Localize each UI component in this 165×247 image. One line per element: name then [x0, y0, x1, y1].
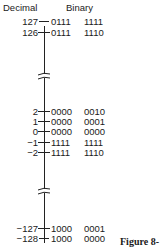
binary-high-nibble: 0111	[51, 16, 71, 27]
binary-high-nibble: 0111	[51, 27, 71, 38]
axis-tick	[38, 32, 50, 33]
binary-high-nibble: 0000	[51, 126, 72, 137]
binary-high-nibble: 1000	[51, 233, 72, 244]
binary-low-nibble: 1110	[84, 147, 104, 158]
value-row: 0 0000 0000	[0, 126, 165, 137]
decimal-value: −2	[27, 147, 38, 158]
binary-low-nibble: 0000	[84, 233, 105, 244]
decimal-column-header: Decimal	[3, 2, 37, 13]
value-row: 126 0111 1110	[0, 27, 165, 38]
axis-tick	[38, 142, 50, 143]
figure-caption: Figure 8-	[120, 236, 159, 247]
binary-column-header: Binary	[66, 2, 93, 13]
binary-low-nibble: 1110	[84, 27, 104, 38]
axis-tick	[38, 121, 50, 122]
axis-tick	[39, 238, 49, 239]
binary-low-nibble: 0000	[84, 126, 105, 137]
binary-low-nibble: 1111	[84, 16, 103, 27]
axis-tick	[38, 131, 50, 132]
decimal-value: −128	[17, 233, 38, 244]
value-row: −2 1111 1110	[0, 147, 165, 158]
axis-tick	[38, 152, 50, 153]
value-row: 127 0111 1111	[0, 16, 165, 27]
decimal-value: 127	[22, 16, 38, 27]
decimal-value: 126	[22, 27, 38, 38]
axis-break-icon	[37, 186, 52, 196]
axis-tick	[38, 228, 50, 229]
axis-break-icon	[37, 71, 52, 81]
axis-tick	[38, 111, 50, 112]
binary-high-nibble: 1111	[51, 147, 70, 158]
axis-tick	[39, 21, 49, 22]
